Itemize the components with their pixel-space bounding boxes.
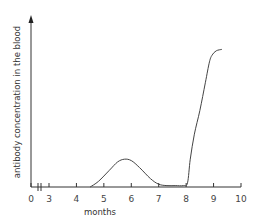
x-tick-label: 9 [211, 194, 217, 204]
y-axis-label: antibody concentration in the blood [12, 26, 22, 178]
x-tick-label: 3 [46, 194, 52, 204]
x-tick-label: 7 [156, 194, 162, 204]
series-line-antibody [90, 49, 222, 187]
x-tick-label: 8 [183, 194, 189, 204]
x-axis-label: months [84, 207, 117, 217]
chart: 0345678910 months antibody concentration… [0, 0, 257, 224]
y-axis-arrow-icon [29, 15, 34, 23]
y-axis [29, 15, 34, 187]
x-tick-label: 6 [128, 194, 134, 204]
x-ticks [31, 183, 241, 187]
x-tick-label: 5 [101, 194, 107, 204]
x-tick-label: 0 [28, 194, 34, 204]
x-tick-labels: 0345678910 [28, 194, 247, 204]
x-tick-label: 10 [235, 194, 247, 204]
x-tick-label: 4 [74, 194, 80, 204]
